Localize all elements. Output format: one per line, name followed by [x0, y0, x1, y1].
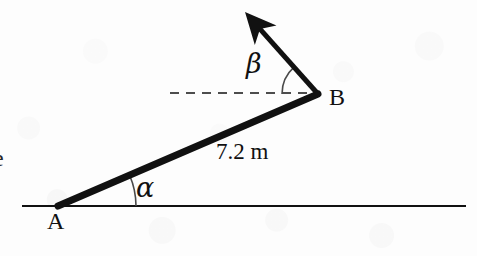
label-rod-length: 7.2 m	[216, 140, 268, 163]
label-point-a: A	[47, 209, 64, 233]
clipped-margin-text: e	[0, 146, 4, 170]
rod-segment-ab	[58, 94, 318, 206]
beta-angle-arc	[282, 67, 294, 94]
label-angle-alpha: α	[136, 174, 154, 201]
label-point-b: B	[329, 85, 345, 109]
diagram-svg	[0, 0, 477, 256]
label-angle-beta: β	[246, 50, 262, 77]
figure-canvas: A B α β 7.2 m e	[0, 0, 477, 256]
velocity-arrow	[259, 28, 318, 94]
